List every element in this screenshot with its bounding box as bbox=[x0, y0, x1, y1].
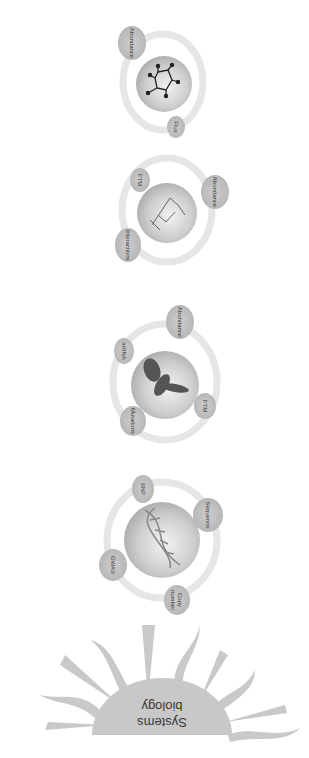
svg-text:GWAS: GWAS bbox=[110, 556, 116, 574]
svg-text:PTM: PTM bbox=[137, 174, 143, 187]
sun: Systems biology bbox=[40, 625, 300, 742]
metabolome-group: Abundance Flux bbox=[118, 26, 203, 138]
svg-text:Abundance: Abundance bbox=[129, 28, 135, 59]
satellite-snp: SNP bbox=[132, 475, 154, 503]
satellite-interactions: Interactions bbox=[115, 228, 141, 262]
svg-text:number: number bbox=[170, 590, 176, 610]
svg-text:Flux: Flux bbox=[173, 121, 179, 132]
systems-biology-diagram: Systems biology SNP Sequence GWAS bbox=[0, 0, 309, 758]
svg-text:Mutations: Mutations bbox=[130, 408, 136, 434]
satellite-copy-number: Copy number bbox=[164, 585, 190, 615]
sun-label-line1: Systems bbox=[137, 715, 187, 730]
svg-text:Interactions: Interactions bbox=[125, 229, 131, 260]
satellite-ptm: PTM bbox=[130, 168, 150, 192]
svg-text:PTM: PTM bbox=[202, 400, 208, 413]
satellite-abundance: Abundance bbox=[201, 175, 229, 209]
satellite-sequence: Sequence bbox=[193, 498, 223, 532]
proteome-sphere bbox=[137, 183, 197, 243]
metabolome-sphere bbox=[136, 56, 192, 112]
svg-text:Copy: Copy bbox=[177, 593, 183, 607]
satellite-abundance: Abundance bbox=[118, 26, 146, 60]
satellite-gwas: GWAS bbox=[99, 549, 127, 581]
satellite-ptm: PTM bbox=[194, 393, 216, 419]
proteome-group: PTM Abundance Interactions bbox=[115, 158, 229, 262]
sun-label-line2: biology bbox=[141, 699, 183, 714]
svg-text:Abundance: Abundance bbox=[177, 307, 183, 338]
svg-text:Sequence: Sequence bbox=[205, 501, 211, 529]
svg-text:mRNA: mRNA bbox=[121, 342, 127, 360]
svg-text:Abundance: Abundance bbox=[212, 177, 218, 208]
genome-group: SNP Sequence GWAS Copy number bbox=[99, 475, 223, 615]
satellite-flux: Flux bbox=[167, 116, 185, 138]
satellite-abundance: Abundance bbox=[166, 305, 194, 339]
satellite-mutations: Mutations bbox=[120, 406, 146, 436]
satellite-mrna: mRNA bbox=[114, 338, 134, 364]
transcriptome-group: Abundance mRNA PTM Mutations bbox=[113, 305, 217, 440]
svg-text:SNP: SNP bbox=[140, 483, 146, 495]
